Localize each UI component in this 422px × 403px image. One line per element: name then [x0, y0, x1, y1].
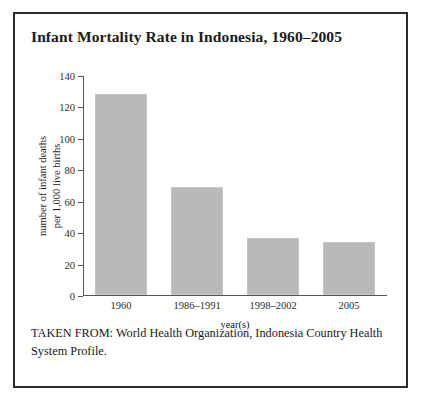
source-note: TAKEN FROM: World Health Organization, I… — [31, 325, 391, 361]
y-axis-tick — [78, 265, 83, 266]
x-axis-tick-label: 1986–1991 — [173, 300, 220, 311]
bar — [171, 187, 223, 295]
x-axis-tick-label: 2005 — [339, 300, 360, 311]
y-axis-tick-label: 0 — [70, 291, 75, 302]
y-axis-tick — [78, 233, 83, 234]
x-axis-tick-label: 1998–2002 — [249, 300, 296, 311]
figure-frame: Infant Mortality Rate in Indonesia, 1960… — [13, 12, 408, 388]
x-axis-line — [83, 295, 387, 296]
x-axis-tick-label: 1960 — [111, 300, 132, 311]
y-axis-tick — [78, 107, 83, 108]
y-axis-line — [83, 76, 84, 296]
y-axis-tick — [78, 139, 83, 140]
bar — [323, 242, 375, 295]
y-axis-tick — [78, 202, 83, 203]
y-axis-tick — [78, 76, 83, 77]
plot-area: 020406080100120140 19601986–19911998–200… — [83, 76, 387, 296]
y-axis-title-line-1: number of infant deaths — [36, 136, 50, 236]
bar — [95, 94, 147, 295]
bar — [247, 238, 299, 295]
chart-title: Infant Mortality Rate in Indonesia, 1960… — [31, 28, 342, 46]
y-axis-tick — [78, 170, 83, 171]
y-axis-title-line-2: per 1,000 live births — [50, 144, 64, 229]
y-axis-title: number of infant deaths per 1,000 live b… — [33, 76, 67, 296]
y-axis-tick — [78, 296, 83, 297]
